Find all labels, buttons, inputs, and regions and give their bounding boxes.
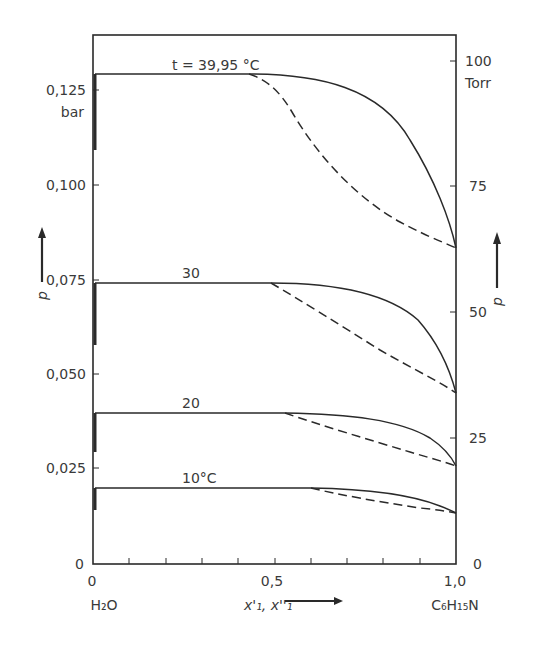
right-arrow-head-icon [493, 232, 501, 244]
curve-label-30: 30 [182, 265, 200, 281]
series-39-95 [95, 74, 456, 248]
left-tick-label: 0,025 [46, 460, 86, 476]
left-tick-label: 0 [75, 556, 84, 572]
left-tick-label: 0,100 [46, 177, 86, 193]
series-20 [95, 413, 456, 466]
left-tick-label: 0,050 [46, 366, 86, 382]
right-tick-label: 100 [465, 53, 492, 69]
series-10 [95, 488, 456, 513]
right-tick-label: 25 [469, 430, 487, 446]
left-tick-label: 0,125 [46, 82, 86, 98]
series-30 [95, 283, 456, 393]
x-tick-label: 1,0 [444, 573, 466, 589]
x-left-component: H₂O [90, 597, 117, 613]
left-tick-label: 0,075 [46, 272, 86, 288]
curve-label-10: 10°C [182, 470, 217, 486]
right-tick-label: 0 [473, 556, 482, 572]
x-tick-label: 0,5 [261, 573, 283, 589]
x-tick-label: 0 [88, 573, 97, 589]
x-ticks [129, 558, 420, 564]
left-arrow-head-icon [38, 227, 46, 238]
left-unit-label: bar [61, 104, 84, 120]
phase-diagram: 0 0,025 0,050 0,075 0,100 0,125 bar 0 25… [0, 0, 533, 654]
x-axis-label: x'₁, x''₁ [243, 597, 292, 613]
x-right-component: C₆H₁₅N [431, 597, 479, 613]
right-unit-label: Torr [464, 75, 491, 91]
x-arrow-head-icon [334, 597, 343, 605]
plot-frame [93, 35, 456, 564]
right-p-label: p [489, 297, 505, 307]
left-p-label: p [34, 291, 50, 301]
curve-label-20: 20 [182, 395, 200, 411]
right-tick-label: 50 [469, 304, 487, 320]
right-tick-label: 75 [469, 178, 487, 194]
curve-label-39-95: t = 39,95 °C [172, 57, 260, 73]
